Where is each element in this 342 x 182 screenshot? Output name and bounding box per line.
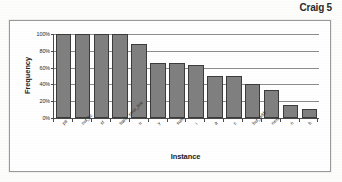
- x-axis-label-slot: y: [148, 122, 167, 156]
- bar-slot: [168, 34, 187, 118]
- x-axis-tick-label: u: [138, 121, 143, 126]
- bar: [207, 76, 223, 118]
- x-axis-label-slot: out_bc: [72, 122, 91, 156]
- page-header-label: Craig 5: [299, 2, 332, 13]
- x-axis-label-slot: n: [280, 122, 299, 156]
- document-page: Craig 5 Frequency 100%80%60%40%20%0% ptr…: [0, 0, 342, 182]
- bar-series: [54, 34, 319, 118]
- x-axis-tick-label: i: [195, 122, 199, 126]
- x-axis-label-slot: c: [223, 122, 242, 156]
- x-axis-label-slot: sf: [91, 122, 110, 156]
- bar-slot: [186, 34, 205, 118]
- bar-slot: [300, 34, 319, 118]
- x-axis-tick-label: c: [233, 121, 238, 126]
- y-axis-tick-labels: 100%80%60%40%20%0%: [26, 34, 50, 118]
- y-axis-tick-label: 40%: [26, 81, 50, 87]
- x-axis-tick-label: b: [308, 121, 313, 126]
- bar-slot: [262, 34, 281, 118]
- y-axis-tick-label: 60%: [26, 65, 50, 71]
- x-axis-tick-labels: ptrout_bcsftrans_error_lineuysumiacbuf_a…: [53, 122, 318, 156]
- x-axis-title: Instance: [53, 152, 318, 161]
- bar: [169, 63, 185, 118]
- bar: [112, 34, 128, 118]
- y-axis-tick-label: 80%: [26, 48, 50, 54]
- y-axis-tick-label: 20%: [26, 98, 50, 104]
- bar: [302, 109, 318, 118]
- bar: [56, 34, 72, 118]
- bar: [283, 105, 299, 118]
- bar: [75, 34, 91, 118]
- y-axis-tick-label: 100%: [26, 31, 50, 37]
- x-axis-label-slot: i: [185, 122, 204, 156]
- bar-slot: [281, 34, 300, 118]
- x-axis-tick-label: sum: [176, 117, 185, 126]
- chart-frame: Frequency 100%80%60%40%20%0% ptrout_bcsf…: [9, 20, 331, 172]
- bar-slot: [54, 34, 73, 118]
- bar: [94, 34, 110, 118]
- bar-slot: [243, 34, 262, 118]
- x-axis-label-slot: buf_addr: [242, 122, 261, 156]
- plot-area: [53, 34, 319, 119]
- bar-slot: [205, 34, 224, 118]
- x-axis-label-slot: ptr: [53, 122, 72, 156]
- x-axis-tick-label: y: [157, 121, 162, 126]
- x-axis-label-slot: a: [204, 122, 223, 156]
- bar-slot: [224, 34, 243, 118]
- bar: [188, 65, 204, 118]
- bar: [226, 76, 242, 118]
- x-axis-label-slot: u: [129, 122, 148, 156]
- bar-slot: [111, 34, 130, 118]
- x-axis-label-slot: sum: [167, 122, 186, 156]
- bar-slot: [149, 34, 168, 118]
- x-axis-tick-label: sf: [100, 121, 106, 127]
- bar: [245, 84, 261, 118]
- bar-slot: [92, 34, 111, 118]
- x-axis-label-slot: next: [261, 122, 280, 156]
- y-axis-tick-label: 0%: [26, 115, 50, 121]
- bar: [150, 63, 166, 118]
- x-axis-label-slot: b: [299, 122, 318, 156]
- bar-slot: [73, 34, 92, 118]
- x-axis-label-slot: trans_error_line: [110, 122, 129, 156]
- x-axis-tick-label: n: [290, 121, 295, 126]
- x-axis-tick-label: a: [214, 121, 219, 126]
